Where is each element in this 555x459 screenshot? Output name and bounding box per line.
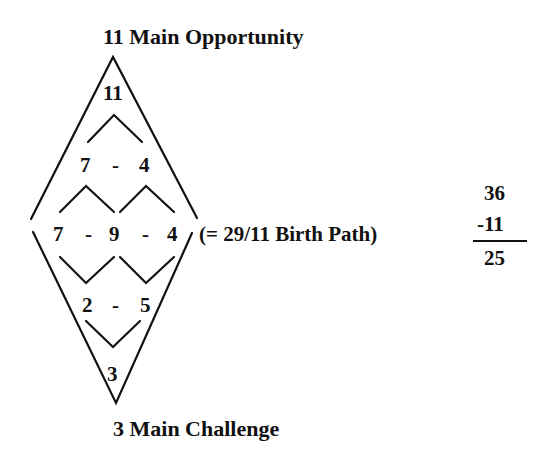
row2-left-value: 7: [80, 155, 91, 176]
row3-left-value: 7: [53, 224, 64, 245]
calc-result: 25: [484, 248, 505, 269]
calc-minuend: 36: [484, 183, 505, 204]
row3-middle-value: 9: [109, 224, 120, 245]
main-opportunity-label: 11 Main Opportunity: [103, 26, 303, 48]
row3-separator-1: -: [85, 224, 92, 245]
row4-left-value: 2: [82, 295, 93, 316]
row4-right-value: 5: [140, 295, 151, 316]
row3-separator-2: -: [142, 224, 149, 245]
calc-subtrahend: -11: [477, 214, 504, 235]
row3-right-value: 4: [167, 224, 178, 245]
row4-separator: -: [112, 295, 119, 316]
birth-path-note: (= 29/11 Birth Path): [199, 224, 377, 245]
main-challenge-label: 3 Main Challenge: [113, 418, 279, 440]
row2-right-value: 4: [139, 155, 150, 176]
bottom-value: 3: [107, 364, 118, 385]
row2-separator: -: [112, 155, 119, 176]
apex-value: 11: [103, 83, 123, 104]
